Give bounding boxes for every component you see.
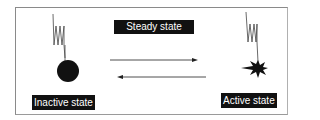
active-state-label: Active state [221,93,277,108]
steady-state-label: Steady state [114,20,194,34]
inactive-ball-icon [57,60,79,82]
inactive-state-label: Inactive state [32,95,95,110]
forward-arrow-icon [110,58,198,62]
active-starburst-icon [241,60,268,78]
right-spring-icon [246,12,258,62]
reverse-arrow-icon [117,75,206,79]
left-spring-icon [53,14,65,62]
